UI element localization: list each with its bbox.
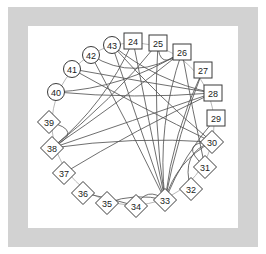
node-shape-diamond[interactable] — [96, 192, 119, 215]
node-shape-square[interactable] — [207, 110, 225, 126]
graph-node-35[interactable]: 35 — [96, 192, 119, 215]
node-shape-square[interactable] — [204, 85, 222, 101]
graph-edge — [72, 69, 212, 142]
node-shape-diamond[interactable] — [53, 162, 76, 185]
graph-node-26[interactable]: 26 — [173, 44, 191, 60]
graph-node-36[interactable]: 36 — [72, 182, 95, 205]
node-shape-square[interactable] — [173, 44, 191, 60]
figure-frame: 2425262728293031323334353637383940414243 — [0, 0, 266, 254]
node-shape-diamond[interactable] — [41, 137, 64, 160]
graph-node-40[interactable]: 40 — [48, 84, 65, 101]
graph-node-38[interactable]: 38 — [41, 137, 64, 160]
node-shape-diamond[interactable] — [154, 189, 177, 212]
graph-edge — [91, 55, 165, 200]
node-shape-circle[interactable] — [64, 61, 81, 78]
graph-node-37[interactable]: 37 — [53, 162, 76, 185]
node-shape-diamond[interactable] — [72, 182, 95, 205]
graph-node-43[interactable]: 43 — [104, 37, 121, 54]
graph-edge — [52, 93, 213, 148]
node-layer: 2425262728293031323334353637383940414243 — [38, 33, 226, 218]
graph-node-27[interactable]: 27 — [194, 62, 212, 78]
graph-node-30[interactable]: 30 — [201, 131, 224, 154]
graph-node-29[interactable]: 29 — [207, 110, 225, 126]
node-shape-circle[interactable] — [48, 84, 65, 101]
graph-edge — [52, 140, 212, 148]
circular-graph-diagram: 2425262728293031323334353637383940414243 — [0, 0, 266, 254]
graph-node-24[interactable]: 24 — [124, 33, 142, 49]
graph-node-32[interactable]: 32 — [180, 178, 203, 201]
node-shape-square[interactable] — [149, 35, 167, 51]
node-shape-diamond[interactable] — [201, 131, 224, 154]
node-shape-diamond[interactable] — [38, 111, 61, 134]
graph-node-39[interactable]: 39 — [38, 111, 61, 134]
node-shape-diamond[interactable] — [180, 178, 203, 201]
node-shape-circle[interactable] — [83, 47, 100, 64]
graph-node-42[interactable]: 42 — [83, 47, 100, 64]
node-shape-square[interactable] — [124, 33, 142, 49]
node-shape-square[interactable] — [194, 62, 212, 78]
node-shape-circle[interactable] — [104, 37, 121, 54]
graph-node-33[interactable]: 33 — [154, 189, 177, 212]
graph-node-41[interactable]: 41 — [64, 61, 81, 78]
graph-node-25[interactable]: 25 — [149, 35, 167, 51]
graph-edge — [112, 45, 212, 142]
graph-node-28[interactable]: 28 — [204, 85, 222, 101]
